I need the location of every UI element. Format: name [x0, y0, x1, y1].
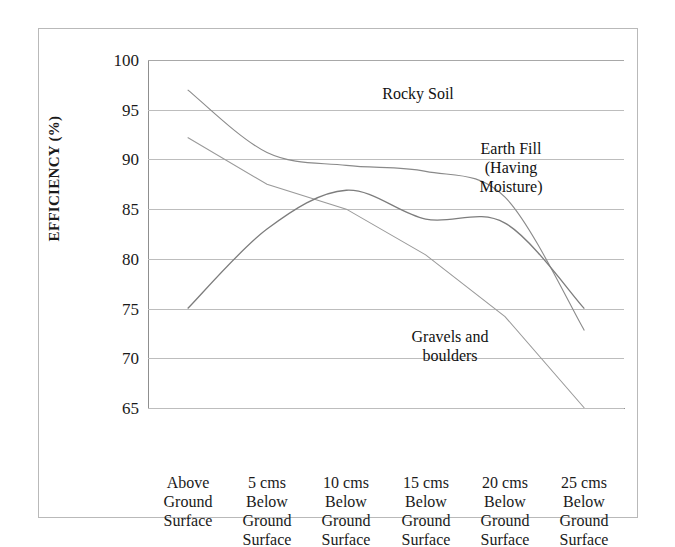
y-tick-90: 90 — [122, 151, 139, 168]
line-earth-fill — [188, 190, 585, 308]
y-tick-85: 85 — [122, 201, 139, 218]
chart-figure: EFFICIENCY (%) 100 95 90 85 80 75 70 65 … — [0, 0, 675, 547]
x-tick-25-cms-below-ground-surface: 25 cms Below Ground Surface — [538, 474, 630, 547]
y-axis-title: EFFICIENCY (%) — [46, 79, 63, 279]
annotation-gravels-and-boulders: Gravels and boulders — [380, 328, 520, 366]
y-tick-65: 65 — [122, 400, 139, 417]
y-tick-75: 75 — [122, 300, 139, 317]
y-tick-100: 100 — [114, 52, 140, 69]
y-tick-95: 95 — [122, 101, 139, 118]
y-tick-80: 80 — [122, 250, 139, 267]
x-tick-10-cms-below-ground-surface: 10 cms Below Ground Surface — [300, 474, 392, 547]
annotation-rocky-soil: Rocky Soil — [348, 85, 488, 104]
annotation-earth-fill: Earth Fill (Having Moisture) — [426, 140, 596, 197]
plot-area: 100 95 90 85 80 75 70 65 Above Ground Su… — [148, 60, 624, 408]
y-tick-70: 70 — [122, 350, 139, 367]
line-rocky-soil — [188, 90, 585, 331]
